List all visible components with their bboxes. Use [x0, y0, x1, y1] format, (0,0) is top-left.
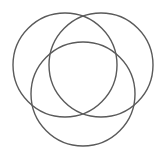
venn-diagram: [0, 0, 159, 154]
circle-bottom: [31, 42, 135, 146]
circle-right: [49, 13, 153, 117]
circle-left: [13, 13, 117, 117]
